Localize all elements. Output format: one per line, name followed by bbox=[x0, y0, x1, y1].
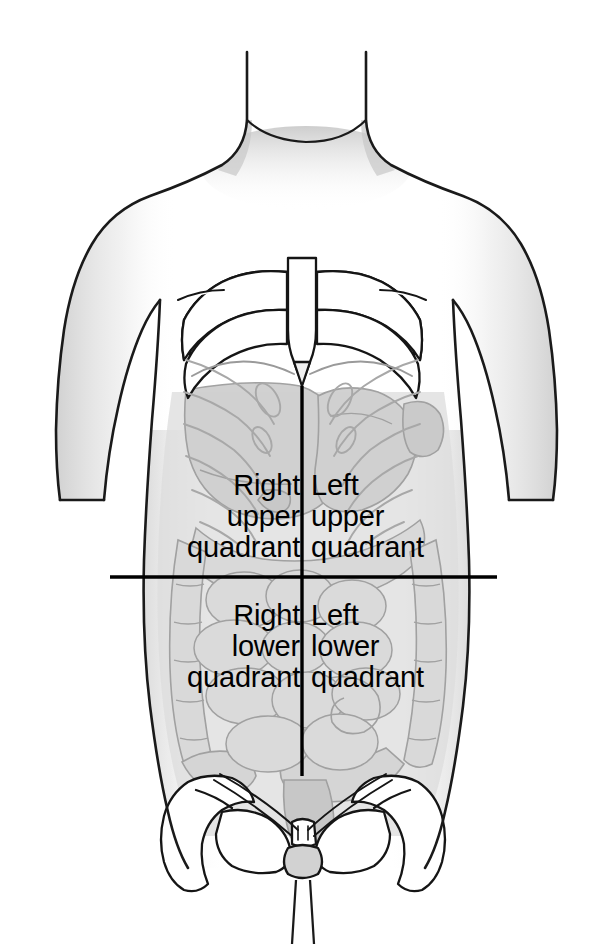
label-right-lower-quadrant: Right lower quadrant bbox=[187, 600, 300, 693]
anatomy-illustration bbox=[0, 0, 613, 944]
label-left-lower-quadrant: Left lower quadrant bbox=[311, 600, 424, 693]
abdominal-quadrants-figure: Right upper quadrant Left upper quadrant… bbox=[0, 0, 613, 944]
spleen-organ bbox=[403, 402, 444, 457]
label-left-upper-quadrant: Left upper quadrant bbox=[311, 470, 424, 563]
pubic-symphysis bbox=[292, 819, 316, 847]
label-right-upper-quadrant: Right upper quadrant bbox=[187, 470, 300, 563]
sacrum-bone bbox=[284, 845, 322, 878]
